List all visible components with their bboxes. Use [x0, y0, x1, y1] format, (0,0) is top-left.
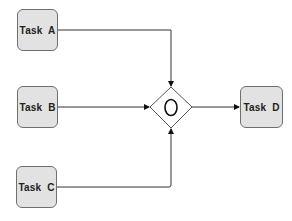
task-b[interactable]: Task B [17, 86, 58, 128]
task-a[interactable]: Task A [17, 9, 58, 51]
task-d[interactable]: Task D [240, 86, 283, 128]
task-a-label: Task A [20, 25, 56, 36]
gateway-diamond[interactable] [150, 87, 192, 128]
task-c[interactable]: Task C [16, 166, 57, 208]
edge-a-to-gateway [58, 30, 171, 86]
task-d-label: Task D [243, 102, 279, 113]
edge-c-to-gateway [57, 129, 171, 187]
task-c-label: Task C [18, 182, 54, 193]
task-b-label: Task B [19, 102, 55, 113]
